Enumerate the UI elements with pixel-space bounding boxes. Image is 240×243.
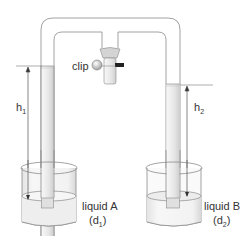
liquid-b-label: liquid B (204, 200, 240, 212)
density-d2-label: (d2) (213, 214, 230, 228)
clip-knob-icon (92, 60, 102, 70)
liquid-a-label: liquid A (82, 200, 118, 212)
clip-valve (92, 32, 124, 84)
hare-apparatus-diagram: clip h1 h2 (0, 0, 240, 243)
clip-label: clip (72, 60, 89, 72)
density-d1-label: (d1) (89, 214, 106, 228)
h2-label: h2 (194, 101, 204, 115)
h1-label: h1 (16, 101, 26, 115)
